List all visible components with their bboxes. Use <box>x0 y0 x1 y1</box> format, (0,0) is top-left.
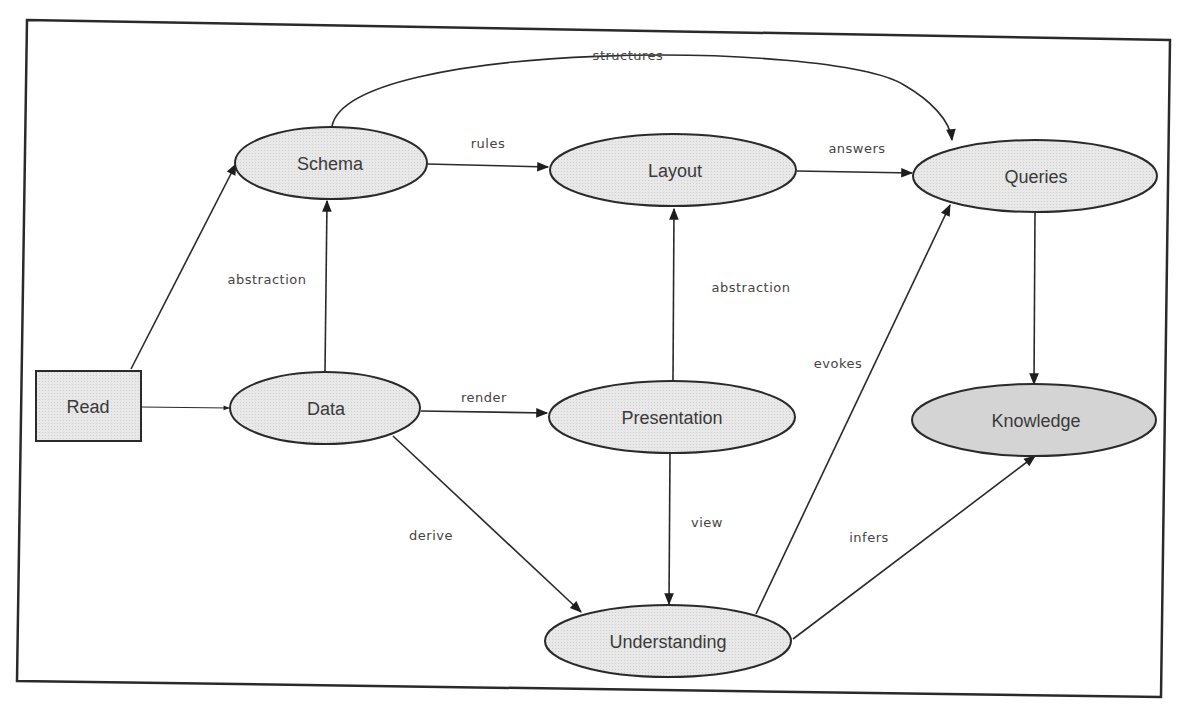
edge-understanding-knowledge <box>793 456 1035 639</box>
edge-data-presentation <box>421 411 547 413</box>
edge-label-abstraction-layout: abstraction <box>712 280 791 295</box>
node-schema[interactable]: Schema <box>235 127 427 199</box>
node-queries[interactable]: Queries <box>913 140 1157 212</box>
node-schema-label: Schema <box>297 154 364 174</box>
edge-label-derive: derive <box>409 528 453 543</box>
node-queries-label: Queries <box>1004 167 1067 187</box>
edge-data-understanding <box>393 436 581 612</box>
edge-label-render: render <box>461 390 507 405</box>
edge-schema-layout <box>427 164 548 167</box>
node-layout-label: Layout <box>648 161 702 181</box>
node-understanding-label: Understanding <box>609 632 726 652</box>
edge-label-structures: structures <box>593 48 664 63</box>
edge-schema-queries <box>332 55 952 140</box>
node-layout[interactable]: Layout <box>550 134 796 206</box>
node-understanding[interactable]: Understanding <box>545 605 791 677</box>
node-presentation[interactable]: Presentation <box>549 381 795 453</box>
node-knowledge-label: Knowledge <box>991 411 1080 431</box>
edge-layout-queries <box>797 171 912 173</box>
node-knowledge[interactable]: Knowledge <box>912 384 1156 456</box>
edge-label-rules: rules <box>471 136 505 151</box>
node-read-label: Read <box>66 397 109 417</box>
node-data-label: Data <box>307 399 346 419</box>
edge-label-abstraction-schema: abstraction <box>228 272 307 287</box>
diagram-frame <box>17 20 1170 697</box>
node-read[interactable]: Read <box>36 371 141 441</box>
edge-label-view: view <box>691 515 723 530</box>
edge-read-schema <box>131 164 236 369</box>
edge-label-evokes: evokes <box>814 356 862 371</box>
edge-data-schema <box>325 201 327 372</box>
edge-label-infers: infers <box>849 530 889 545</box>
edge-queries-knowledge <box>1034 213 1035 384</box>
edge-read-data <box>141 407 229 408</box>
edge-presentation-layout <box>673 209 674 381</box>
edge-presentation-understanding <box>669 453 670 604</box>
node-data[interactable]: Data <box>230 372 420 444</box>
diagram-canvas: structures rules answers abstraction abs… <box>0 0 1189 719</box>
node-presentation-label: Presentation <box>621 408 722 428</box>
edge-label-answers: answers <box>828 141 885 156</box>
